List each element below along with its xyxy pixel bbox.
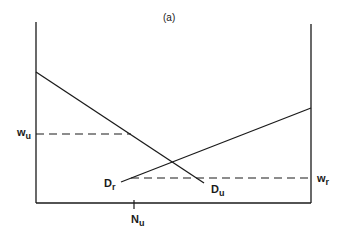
label-dr-sub: r bbox=[112, 182, 116, 192]
label-dr-base: D bbox=[104, 177, 112, 189]
diagram-canvas bbox=[0, 0, 346, 244]
label-wr-base: w bbox=[317, 172, 326, 184]
label-nu-base: N bbox=[131, 213, 139, 225]
diagram-title: (a) bbox=[163, 13, 175, 23]
label-nu: Nu bbox=[131, 214, 144, 228]
label-wu-base: w bbox=[17, 126, 26, 138]
label-wu: wu bbox=[17, 127, 31, 141]
label-wr-sub: r bbox=[326, 177, 330, 187]
label-du-sub: u bbox=[219, 188, 225, 198]
demand-curve-du bbox=[36, 72, 204, 183]
label-wu-sub: u bbox=[26, 131, 32, 141]
label-du-base: D bbox=[211, 183, 219, 195]
demand-curve-dr bbox=[121, 108, 311, 182]
label-du: Du bbox=[211, 184, 224, 198]
label-dr: Dr bbox=[104, 178, 115, 192]
label-nu-sub: u bbox=[139, 218, 145, 228]
label-wr: wr bbox=[317, 173, 329, 187]
